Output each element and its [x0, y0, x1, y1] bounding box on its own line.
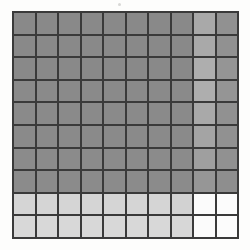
heatmap-cell [59, 103, 80, 124]
heatmap-cell [59, 149, 80, 170]
heatmap-cell [127, 126, 148, 147]
heatmap-cell [194, 171, 215, 192]
heatmap-cell [172, 13, 193, 34]
heatmap-cell [59, 36, 80, 57]
heatmap-cell [194, 149, 215, 170]
heatmap-cell [104, 36, 125, 57]
heatmap-cell [149, 216, 170, 237]
heatmap-cell [14, 149, 35, 170]
heatmap-cell [194, 194, 215, 215]
heatmap-cell [59, 171, 80, 192]
heatmap-cell [172, 194, 193, 215]
heatmap-cell [127, 194, 148, 215]
heatmap-cell [104, 58, 125, 79]
heatmap-cell [149, 81, 170, 102]
heatmap-grid [12, 11, 239, 239]
heatmap-cell [104, 149, 125, 170]
heatmap-cell [127, 13, 148, 34]
heatmap-cell [104, 103, 125, 124]
heatmap-cell [59, 126, 80, 147]
heatmap-cell [172, 171, 193, 192]
heatmap-cell [14, 194, 35, 215]
heatmap-cell [14, 126, 35, 147]
heatmap-cell [37, 13, 58, 34]
heatmap-cell [194, 58, 215, 79]
heatmap-cell [217, 103, 238, 124]
heatmap-cell [149, 171, 170, 192]
scan-artifact-speck [118, 3, 121, 6]
heatmap-cell [82, 36, 103, 57]
heatmap-cell [37, 149, 58, 170]
heatmap-cell [82, 13, 103, 34]
heatmap-cell [217, 216, 238, 237]
heatmap-cell [149, 36, 170, 57]
heatmap-cell [82, 149, 103, 170]
heatmap-cell [149, 194, 170, 215]
heatmap-cell [37, 81, 58, 102]
heatmap-cell [217, 81, 238, 102]
heatmap-cell [104, 171, 125, 192]
heatmap-cell [37, 171, 58, 192]
heatmap-cell [217, 149, 238, 170]
heatmap-cell [59, 194, 80, 215]
heatmap-cell [194, 13, 215, 34]
heatmap-cell [104, 81, 125, 102]
heatmap-cell [82, 171, 103, 192]
heatmap-cell [217, 58, 238, 79]
heatmap-cell [59, 216, 80, 237]
heatmap-cell [37, 194, 58, 215]
heatmap-cell [149, 103, 170, 124]
heatmap-cell [14, 216, 35, 237]
heatmap-cell [37, 58, 58, 79]
heatmap-cell [127, 81, 148, 102]
heatmap-cell [149, 126, 170, 147]
heatmap-cell [37, 216, 58, 237]
heatmap-cell [127, 149, 148, 170]
heatmap-cell [194, 36, 215, 57]
heatmap-cell [217, 126, 238, 147]
grid-figure [0, 0, 250, 250]
heatmap-cell [127, 58, 148, 79]
heatmap-cell [37, 126, 58, 147]
heatmap-cell [59, 58, 80, 79]
heatmap-cell [104, 13, 125, 34]
heatmap-cell [14, 171, 35, 192]
heatmap-cell [194, 81, 215, 102]
heatmap-cell [82, 216, 103, 237]
heatmap-cell [172, 36, 193, 57]
heatmap-cell [217, 13, 238, 34]
heatmap-cell [104, 216, 125, 237]
heatmap-cell [104, 194, 125, 215]
heatmap-cell [194, 216, 215, 237]
heatmap-cell [172, 126, 193, 147]
heatmap-cell [127, 216, 148, 237]
heatmap-cell [172, 103, 193, 124]
heatmap-cell [172, 149, 193, 170]
heatmap-cell [14, 103, 35, 124]
heatmap-cell [127, 103, 148, 124]
heatmap-cell [194, 103, 215, 124]
heatmap-cell [217, 36, 238, 57]
heatmap-cell [172, 58, 193, 79]
heatmap-cell [82, 126, 103, 147]
heatmap-cell [82, 81, 103, 102]
heatmap-cell [104, 126, 125, 147]
heatmap-cell [149, 149, 170, 170]
heatmap-cell [14, 81, 35, 102]
heatmap-cell [59, 81, 80, 102]
heatmap-cell [149, 58, 170, 79]
heatmap-cell [149, 13, 170, 34]
heatmap-cell [59, 13, 80, 34]
heatmap-cell [14, 36, 35, 57]
heatmap-cell [82, 103, 103, 124]
heatmap-cell [82, 58, 103, 79]
heatmap-cell [82, 194, 103, 215]
heatmap-cell [37, 36, 58, 57]
heatmap-cell [217, 171, 238, 192]
heatmap-cell [194, 126, 215, 147]
heatmap-cell [172, 81, 193, 102]
heatmap-cell [127, 171, 148, 192]
heatmap-cell [217, 194, 238, 215]
heatmap-cell [127, 36, 148, 57]
heatmap-cell [14, 13, 35, 34]
